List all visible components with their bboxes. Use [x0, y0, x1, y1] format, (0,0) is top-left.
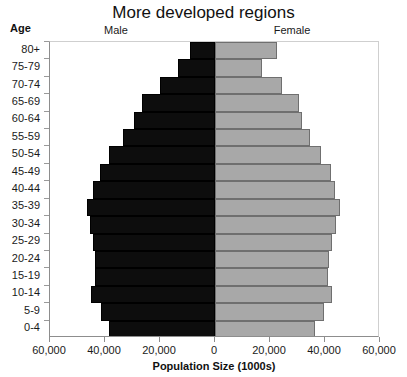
- pyramid-row: [50, 42, 379, 59]
- y-axis-tick: [44, 233, 49, 234]
- pyramid-row: [50, 94, 379, 111]
- x-axis-tick-label: 60,000: [32, 344, 66, 356]
- x-axis-tick: [104, 337, 105, 342]
- legend-male-label: Male: [68, 24, 164, 36]
- x-axis-title: Population Size (1000s): [49, 360, 379, 372]
- bar-male: [134, 112, 215, 129]
- bar-male: [100, 164, 216, 181]
- pyramid-row: [50, 112, 379, 129]
- y-axis-tick-label: 70-74: [12, 79, 40, 90]
- bar-male: [87, 199, 215, 216]
- legend-female-label: Female: [244, 24, 340, 36]
- y-axis-tick-label: 55-59: [12, 131, 40, 142]
- pyramid-row: [50, 199, 379, 216]
- pyramid-row: [50, 146, 379, 163]
- bar-male: [93, 234, 215, 251]
- y-axis-tick: [44, 58, 49, 59]
- y-axis-tick: [44, 111, 49, 112]
- bar-female: [215, 42, 277, 59]
- bar-female: [215, 77, 282, 94]
- x-axis-tick-label: 20,000: [142, 344, 176, 356]
- chart-title: More developed regions: [0, 3, 407, 23]
- y-axis-tick-label: 40-44: [12, 183, 40, 194]
- pyramid-row: [50, 321, 379, 337]
- y-axis-tick-label: 75-79: [12, 61, 40, 72]
- pyramid-row: [50, 268, 379, 285]
- pyramid-row: [50, 303, 379, 320]
- x-axis-tick: [159, 337, 160, 342]
- bar-male: [109, 321, 215, 337]
- population-pyramid-chart: More developed regions Age Male Female 8…: [0, 0, 407, 377]
- y-axis-tick-label: 35-39: [12, 200, 40, 211]
- y-axis-tick: [44, 93, 49, 94]
- pyramid-row: [50, 251, 379, 268]
- pyramid-row: [50, 234, 379, 251]
- bar-male: [95, 268, 215, 285]
- x-axis-tick: [269, 337, 270, 342]
- x-axis-tick: [49, 337, 50, 342]
- y-axis-tick-label: 80+: [21, 44, 40, 55]
- pyramid-row: [50, 286, 379, 303]
- x-axis-tick-label: 0: [211, 344, 217, 356]
- y-axis-tick-label: 20-24: [12, 253, 40, 264]
- y-axis-tick: [44, 215, 49, 216]
- pyramid-row: [50, 216, 379, 233]
- bar-female: [215, 146, 321, 163]
- bar-female: [215, 286, 332, 303]
- bar-female: [215, 129, 310, 146]
- plot-area: [49, 41, 379, 337]
- pyramid-row: [50, 77, 379, 94]
- bar-male: [123, 129, 215, 146]
- y-axis-tick: [44, 198, 49, 199]
- y-axis-tick: [44, 180, 49, 181]
- y-axis-tick-label: 15-19: [12, 270, 40, 281]
- pyramid-row: [50, 181, 379, 198]
- y-axis-tick: [44, 145, 49, 146]
- bar-male: [190, 42, 215, 59]
- bar-female: [215, 94, 299, 111]
- x-axis-tick: [324, 337, 325, 342]
- bar-male: [90, 216, 215, 233]
- y-axis-tick: [44, 302, 49, 303]
- bar-female: [215, 321, 315, 337]
- bar-male: [178, 59, 215, 76]
- pyramid-row: [50, 59, 379, 76]
- bar-female: [215, 59, 262, 76]
- y-axis-tick-label: 65-69: [12, 96, 40, 107]
- pyramid-row: [50, 129, 379, 146]
- bar-male: [101, 303, 215, 320]
- y-axis-tick: [44, 320, 49, 321]
- y-axis-tick: [44, 128, 49, 129]
- bar-male: [109, 146, 215, 163]
- bar-female: [215, 303, 324, 320]
- bar-male: [93, 181, 215, 198]
- bar-male: [160, 77, 215, 94]
- y-axis-labels: 80+75-7970-7465-6960-6455-5950-5445-4940…: [0, 41, 45, 337]
- y-axis-tick-label: 10-14: [12, 287, 40, 298]
- bar-male: [91, 286, 215, 303]
- x-axis-tick-label: 20,000: [252, 344, 286, 356]
- bar-female: [215, 112, 302, 129]
- x-axis-tick-label: 40,000: [307, 344, 341, 356]
- y-axis-tick: [44, 41, 49, 42]
- x-axis-tick-label: 60,000: [362, 344, 396, 356]
- bar-female: [215, 234, 332, 251]
- y-axis-tick-label: 45-49: [12, 166, 40, 177]
- bar-female: [215, 199, 340, 216]
- bar-female: [215, 251, 329, 268]
- y-axis-tick: [44, 285, 49, 286]
- bar-female: [215, 216, 336, 233]
- x-axis-tick: [379, 337, 380, 342]
- pyramid-row: [50, 164, 379, 181]
- y-axis-tick-label: 50-54: [12, 148, 40, 159]
- y-axis-tick: [44, 163, 49, 164]
- y-axis-tick-label: 5-9: [24, 305, 40, 316]
- y-axis-tick-label: 0-4: [24, 322, 40, 333]
- bar-female: [215, 268, 328, 285]
- y-axis-tick: [44, 250, 49, 251]
- x-axis-tick-label: 40,000: [87, 344, 121, 356]
- bar-male: [95, 251, 215, 268]
- x-axis-tick: [214, 337, 215, 342]
- bar-female: [215, 164, 331, 181]
- bar-male: [142, 94, 215, 111]
